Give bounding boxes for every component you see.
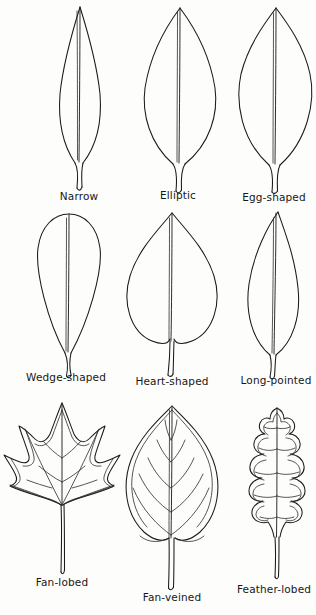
caption-long-pointed: Long-pointed [241,374,312,386]
caption-fan-veined: Fan-veined [143,591,202,603]
leaf-drawing-wedge-shaped [34,210,104,380]
caption-elliptic: Elliptic [160,189,196,201]
caption-feather-lobed: Feather-lobed [237,583,311,595]
caption-egg-shaped: Egg-shaped [242,191,306,203]
leaf-drawing-fan-veined [120,402,224,594]
leaf-drawing-egg-shaped [236,2,314,194]
leaf-drawing-narrow [47,2,113,194]
leaf-drawing-feather-lobed [240,404,314,582]
leaf-drawing-heart-shaped [124,208,220,378]
leaf-shapes-figure: Narrow Elliptic Egg-shaped [0,0,316,615]
caption-heart-shaped: Heart-shaped [135,375,208,387]
leaf-drawing-long-pointed [240,208,312,380]
caption-fan-lobed: Fan-lobed [36,576,88,588]
leaf-drawing-fan-lobed [2,398,120,576]
caption-narrow: Narrow [60,190,98,202]
caption-wedge-shaped: Wedge-shaped [26,371,106,383]
leaf-drawing-elliptic [141,2,219,194]
